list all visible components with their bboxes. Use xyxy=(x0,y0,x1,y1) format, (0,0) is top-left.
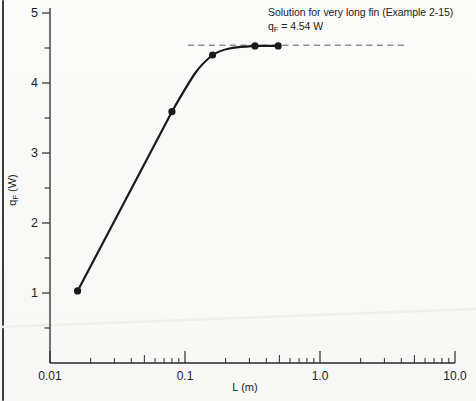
y-tick-label: 3 xyxy=(31,146,38,160)
annotation-line2: qF = 4.54 W xyxy=(268,19,453,37)
data-point-marker xyxy=(275,42,282,49)
x-tick-label: 0.1 xyxy=(177,369,194,383)
fin-heat-rate-curve xyxy=(78,46,279,291)
y-tick-label: 5 xyxy=(31,6,38,20)
x-axis-label: L (m) xyxy=(232,381,257,393)
figure-page: 123450.010.11.010.0 Solution for very lo… xyxy=(0,0,476,401)
fin-heat-rate-chart: 123450.010.11.010.0 xyxy=(0,0,476,401)
y-axis-label: qF (W) xyxy=(6,174,20,205)
annotation-line1: Solution for very long fin (Example 2-15… xyxy=(268,5,453,19)
x-tick-label: 10.0 xyxy=(443,369,467,383)
data-point-marker xyxy=(74,287,81,294)
scan-artifact-line xyxy=(0,309,476,327)
x-tick-label: 0.01 xyxy=(38,369,62,383)
data-point-marker xyxy=(209,51,216,58)
chart-annotation: Solution for very long fin (Example 2-15… xyxy=(268,5,453,37)
y-tick-label: 4 xyxy=(31,76,38,90)
y-tick-label: 1 xyxy=(31,286,38,300)
data-point-marker xyxy=(251,42,258,49)
y-tick-label: 2 xyxy=(31,216,38,230)
x-tick-label: 1.0 xyxy=(312,369,329,383)
data-point-marker xyxy=(168,108,175,115)
